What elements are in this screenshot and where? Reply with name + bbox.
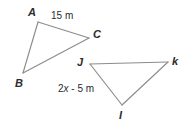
triangles-drawing	[0, 0, 189, 121]
vertex-label-b: B	[15, 78, 23, 89]
vertex-label-i: I	[119, 110, 122, 121]
vertex-label-k: k	[172, 56, 178, 67]
segment-ki	[122, 62, 168, 105]
segment-jk	[90, 62, 168, 64]
side-label-ji-remainder: - 5 m	[69, 83, 95, 94]
vertex-label-j: J	[77, 57, 83, 68]
side-label-ji: 2x - 5 m	[58, 84, 94, 94]
vertex-label-c: C	[93, 29, 101, 40]
segment-ij	[90, 64, 122, 105]
segment-ba	[23, 22, 38, 73]
vertex-label-a: A	[28, 7, 36, 18]
segment-ac	[38, 22, 89, 38]
side-label-ac: 15 m	[51, 11, 73, 21]
triangle-jki-shape	[90, 62, 168, 105]
geometry-figure: A B C J k I 15 m 2x - 5 m	[0, 0, 189, 121]
